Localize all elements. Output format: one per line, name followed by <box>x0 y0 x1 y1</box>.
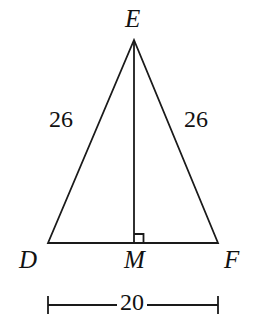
vertex-label-M: M <box>124 247 145 272</box>
side-length-label-left-leg: 26 <box>49 107 73 131</box>
geometry-figure: E D M F 26 26 20 <box>0 0 260 333</box>
triangle-diagram-canvas <box>0 0 260 333</box>
right-angle-marker <box>134 234 144 243</box>
base-length-label: 20 <box>117 290 147 314</box>
vertex-label-D: D <box>19 247 37 272</box>
side-length-label-right-leg: 26 <box>184 107 208 131</box>
triangle-outline <box>48 40 218 243</box>
vertex-label-F: F <box>224 247 239 272</box>
vertex-label-E: E <box>125 6 140 31</box>
